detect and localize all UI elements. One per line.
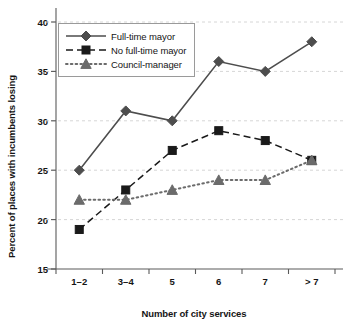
- legend-item-1[interactable]: Full-time mayor: [64, 29, 186, 43]
- y-axis-title: Percent of places with incumbents losing: [0, 0, 22, 333]
- legend-item-3[interactable]: Council-manager: [64, 57, 186, 71]
- x-tick-label: 7: [263, 276, 268, 287]
- y-tick-label: 35: [26, 66, 48, 77]
- legend-key-diamond-icon: [64, 29, 108, 43]
- chart-legend: Full-time mayorNo full-time mayorCouncil…: [58, 23, 195, 77]
- y-tick-label: 40: [26, 17, 48, 28]
- y-tick-label: 25: [26, 165, 48, 176]
- x-tick-label: 1–2: [71, 276, 87, 287]
- legend-label: Full-time mayor: [108, 31, 175, 42]
- marker-square: [75, 225, 83, 233]
- x-axis-title: Number of city services: [45, 308, 343, 319]
- series-3: [74, 155, 317, 204]
- marker-square: [168, 146, 176, 154]
- legend-label: No full-time mayor: [108, 45, 186, 56]
- y-axis-tick-labels: 152025303540: [24, 22, 48, 269]
- x-tick-label: > 7: [305, 276, 318, 287]
- y-tick-label: 15: [26, 264, 48, 275]
- series-line: [79, 131, 312, 230]
- legend-key-triangle-icon: [64, 57, 108, 71]
- marker-square: [122, 186, 130, 194]
- marker-square: [261, 137, 269, 145]
- y-tick-label: 30: [26, 115, 48, 126]
- x-tick-label: 5: [170, 276, 175, 287]
- marker-diamond: [81, 31, 91, 41]
- chart-figure: Percent of places with incumbents losing…: [0, 0, 343, 333]
- marker-triangle: [74, 195, 84, 205]
- marker-diamond: [307, 37, 317, 47]
- legend-item-2[interactable]: No full-time mayor: [64, 43, 186, 57]
- series-line: [79, 160, 312, 200]
- marker-square: [215, 127, 223, 135]
- legend-label: Council-manager: [108, 59, 182, 70]
- marker-diamond: [260, 66, 270, 76]
- marker-square: [82, 46, 90, 54]
- x-tick-label: 6: [216, 276, 221, 287]
- series-2: [75, 127, 316, 234]
- x-tick-label: 3–4: [118, 276, 134, 287]
- y-tick-label: 20: [26, 214, 48, 225]
- x-axis-tick-labels: 1–23–4567> 7: [56, 276, 335, 292]
- legend-key-square-icon: [64, 43, 108, 57]
